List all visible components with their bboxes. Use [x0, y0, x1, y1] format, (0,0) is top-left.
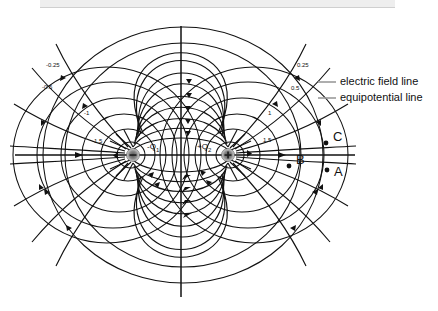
point-label-b: B [296, 153, 305, 166]
dipole-field-diagram [0, 0, 438, 311]
equipotential-label-pos-1-5: 1.5 [263, 137, 271, 143]
charge-neg-subscript: 1 [156, 147, 159, 153]
legend-label-electric-field: electric field line [340, 76, 418, 87]
legend-connector-lines [318, 82, 336, 98]
charge-label-positive: +Q2 [197, 143, 211, 153]
equipotential-label-pos-0-25: 0.25 [297, 62, 309, 68]
charge-label-negative: -Q1 [147, 143, 159, 153]
point-label-c: C [333, 130, 342, 143]
equipotential-label-pos-0-5: 0.5 [291, 85, 299, 91]
equipotential-label-neg-0-5: -0.5 [42, 84, 52, 90]
charge-pos-subscript: 2 [208, 147, 211, 153]
point-label-a: A [334, 165, 343, 178]
legend-label-equipotential: equipotential line [340, 92, 423, 103]
equipotential-label-neg-0-25: -0.25 [46, 62, 60, 68]
equipotential-label-pos-1: 1 [268, 110, 271, 116]
equipotential-label-neg-1: -1 [84, 110, 89, 116]
equipotential-label-neg-1-5: -1.5 [92, 138, 102, 144]
